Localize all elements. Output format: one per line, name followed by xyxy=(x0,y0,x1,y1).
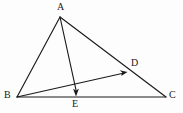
vertex-label-C: C xyxy=(169,90,176,100)
segment-AC xyxy=(60,17,166,97)
segment-BD xyxy=(17,74,122,98)
vertex-label-D: D xyxy=(131,58,138,68)
geometry-canvas xyxy=(0,0,183,113)
vertex-label-E: E xyxy=(72,99,78,109)
segment-AB xyxy=(17,17,60,97)
vertex-label-B: B xyxy=(4,90,11,100)
geometry-figure: A B C D E xyxy=(0,0,183,113)
vertex-label-A: A xyxy=(57,2,64,12)
triangle-sides xyxy=(17,17,166,97)
cevian-lines xyxy=(17,17,128,97)
arrowhead-at-D xyxy=(120,70,128,76)
